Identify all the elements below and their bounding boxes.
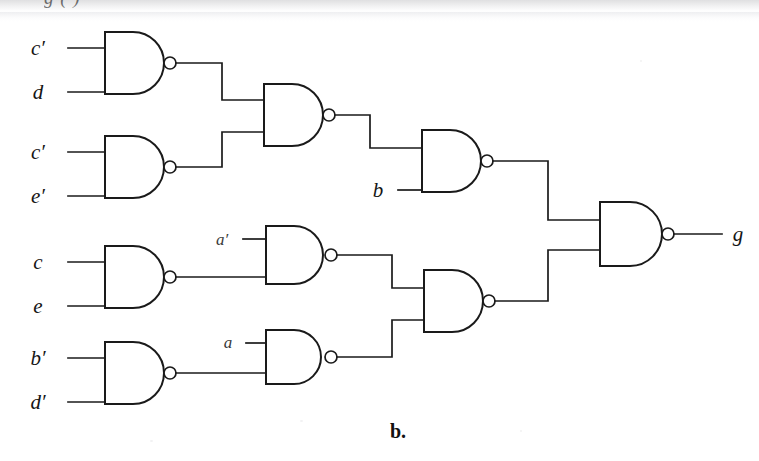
label-in-a: a bbox=[224, 333, 233, 352]
gate-ce2[interactable] bbox=[105, 246, 176, 308]
wire-gate-ce-to-merge-top bbox=[176, 132, 264, 167]
gate-bd[interactable] bbox=[105, 342, 176, 404]
label-in-e: e bbox=[33, 294, 42, 318]
label-in-b: b bbox=[373, 178, 384, 202]
gate-merge-bot[interactable] bbox=[424, 270, 495, 332]
label-in-c-prime-2: c′ bbox=[31, 140, 45, 164]
wire-aprime-to-merge-bot bbox=[337, 255, 424, 288]
wire-merge-bot-to-output bbox=[495, 250, 600, 301]
gate-merge-top[interactable] bbox=[264, 84, 335, 146]
label-output-g: g bbox=[733, 222, 744, 246]
label-in-c: c bbox=[33, 250, 43, 274]
label-in-d-prime: d′ bbox=[30, 390, 46, 414]
gate-a[interactable] bbox=[266, 330, 337, 384]
figure-page: g ( ) bbox=[0, 0, 759, 461]
wire-merge-top-to-gate-b bbox=[335, 115, 422, 148]
gate-ce[interactable] bbox=[105, 136, 176, 198]
label-in-d: d bbox=[33, 80, 44, 104]
label-in-c-prime-1: c′ bbox=[31, 36, 45, 60]
gate-output[interactable] bbox=[600, 202, 674, 266]
gate-b[interactable] bbox=[422, 130, 493, 192]
label-in-e-prime: e′ bbox=[31, 184, 45, 208]
label-in-b-prime: b′ bbox=[30, 346, 46, 370]
gate-cd[interactable] bbox=[105, 32, 176, 94]
wire-gate-a-to-merge-bot bbox=[337, 320, 424, 357]
wire-gate-cd-to-merge-top bbox=[176, 63, 264, 100]
wire-gate-b-to-output bbox=[493, 161, 600, 220]
label-in-a-prime: a′ bbox=[216, 230, 229, 249]
figure-caption: b. bbox=[390, 420, 406, 442]
gate-aprime[interactable] bbox=[266, 226, 337, 284]
logic-circuit-diagram: c′ d c′ e′ c e b′ d′ b a′ a g b. bbox=[0, 0, 759, 461]
